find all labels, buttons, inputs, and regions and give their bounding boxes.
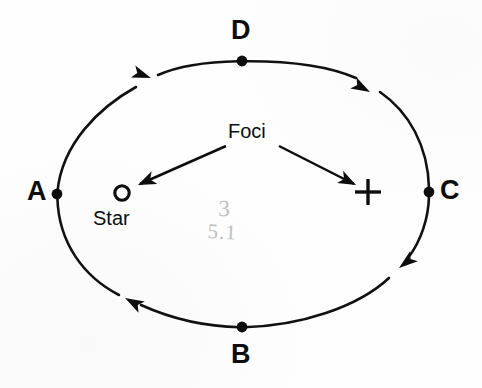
orbit-arc-b-to-bottomright xyxy=(244,278,389,327)
orbit-ellipse-path xyxy=(57,61,429,327)
handwritten-denominator: 5.1 xyxy=(207,220,237,244)
diagram-page: A B C D Foci Star 3 5.1 xyxy=(0,0,482,388)
orbit-arc-bottomright-to-c xyxy=(408,196,429,258)
foci-leader-line-left xyxy=(140,146,226,184)
vertex-dot-a xyxy=(52,189,63,200)
orbit-arc-topleft-to-a xyxy=(57,87,136,192)
orbit-arc-topright-to-d xyxy=(246,61,356,78)
orbit-arrow-top-left-icon xyxy=(131,65,153,84)
vertex-dot-d xyxy=(237,56,248,67)
orbit-arc-bottomleft-to-b xyxy=(141,305,240,327)
foci-leader-lines xyxy=(140,146,354,184)
foci-caption: Foci xyxy=(228,121,266,141)
orbit-arrow-top-right-icon xyxy=(350,77,373,97)
handwritten-numerator: 3 xyxy=(209,197,239,222)
vertex-label-c: C xyxy=(440,177,460,204)
handwritten-annotation: 3 5.1 xyxy=(208,196,240,244)
orbit-arc-d-to-topleft xyxy=(158,61,238,75)
orbit-arc-c-to-topright xyxy=(380,92,429,188)
orbit-arrow-bottom-left-icon xyxy=(122,292,145,312)
vertex-label-b: B xyxy=(231,341,251,368)
star-focus-marker-icon xyxy=(115,186,129,200)
vertex-label-d: D xyxy=(231,17,251,44)
orbit-diagram-canvas xyxy=(0,0,482,388)
orbit-vertex-dots xyxy=(52,56,435,333)
star-label: Star xyxy=(93,208,130,228)
empty-focus-marker-icon xyxy=(355,179,381,205)
vertex-dot-c xyxy=(424,187,435,198)
orbit-arrow-bottom-right-icon xyxy=(395,251,418,273)
vertex-label-a: A xyxy=(27,178,47,205)
vertex-dot-b xyxy=(237,322,248,333)
foci-leader-line-right xyxy=(279,146,354,184)
orbit-direction-arrowheads xyxy=(122,65,418,312)
